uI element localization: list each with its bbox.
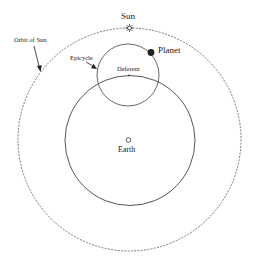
- earth-icon: [126, 138, 131, 143]
- epicycle-arrow: [86, 62, 97, 69]
- sun-icon: [126, 24, 134, 32]
- epicycle-center-dot: [128, 75, 130, 77]
- epicycle-diagram: Sun Planet Orbit of Sun Epicycle Deferen…: [0, 0, 253, 264]
- earth-label: Earth: [118, 146, 135, 154]
- orbit-of-sun-label: Orbit of Sun: [14, 37, 47, 44]
- sun-label: Sun: [121, 12, 135, 21]
- planet-label: Planet: [158, 46, 181, 55]
- planet-icon: [148, 49, 155, 56]
- orbit-of-sun-arrow: [34, 46, 42, 72]
- epicycle-label: Epicycle: [70, 55, 93, 62]
- deferent-label: Deferent: [117, 66, 140, 73]
